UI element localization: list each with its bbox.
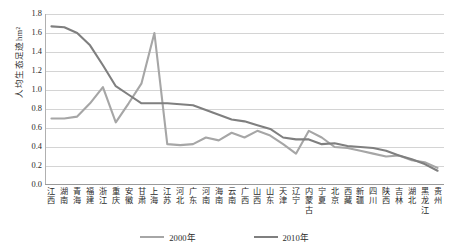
x-tick-label: 四川 (367, 187, 380, 231)
x-tick-label-char: 江 (421, 206, 429, 215)
x-tick-label-char: 青 (73, 187, 81, 196)
x-tick-label: 辽宁 (290, 187, 303, 231)
x-tick-label: 内蒙古 (303, 187, 316, 231)
x-tick-label-char: 建 (86, 196, 94, 205)
x-tick-label: 河南 (200, 187, 213, 231)
x-tick-label-char: 湖 (60, 187, 68, 196)
x-tick-label: 山东 (264, 187, 277, 231)
y-tick-label: 0.0 (18, 181, 42, 189)
x-tick-label: 湖南 (58, 187, 71, 231)
x-tick-label-char: 云 (228, 187, 236, 196)
x-tick-label-char: 湖 (408, 187, 416, 196)
x-tick-label-char: 山 (253, 187, 261, 196)
x-tick-label-char: 西 (382, 196, 390, 205)
x-tick-label: 贵州 (431, 187, 444, 231)
x-tick-label-char: 河 (202, 187, 210, 196)
x-tick-label-char: 疆 (356, 196, 364, 205)
x-tick-label-char: 新 (356, 187, 364, 196)
x-tick-label: 江苏 (161, 187, 174, 231)
x-tick-label-char: 海 (150, 196, 158, 205)
x-tick-label-char: 京 (331, 196, 339, 205)
y-tick-label: 0.6 (18, 124, 42, 132)
y-tick-label: 1.0 (18, 86, 42, 94)
x-tick-label-char: 东 (266, 196, 274, 205)
x-tick-label: 宁夏 (315, 187, 328, 231)
x-tick-label-char: 林 (395, 196, 403, 205)
x-tick-label-char: 山 (266, 187, 274, 196)
x-tick-label-char: 辽 (292, 187, 300, 196)
legend-item[interactable]: 2010年 (254, 231, 309, 243)
x-tick-label: 江西 (45, 187, 58, 231)
y-tick-label: 1.6 (18, 29, 42, 37)
x-tick-label-char: 南 (60, 196, 68, 205)
x-tick-label-char: 江 (163, 187, 171, 196)
x-tick-label: 北京 (328, 187, 341, 231)
x-tick-label: 河北 (174, 187, 187, 231)
x-tick-label-char: 北 (408, 196, 416, 205)
x-tick-label: 甘肃 (135, 187, 148, 231)
x-tick-label: 安徽 (122, 187, 135, 231)
x-tick-label: 山西 (251, 187, 264, 231)
x-tick-label-char: 江 (47, 187, 55, 196)
x-tick-label: 西藏 (341, 187, 354, 231)
y-tick-label: 1.2 (18, 67, 42, 75)
x-tick-label-char: 东 (189, 196, 197, 205)
x-tick-label: 福建 (84, 187, 97, 231)
x-tick-label-char: 海 (215, 187, 223, 196)
x-tick-label: 上海 (148, 187, 161, 231)
x-tick-label-char: 海 (73, 196, 81, 205)
x-tick-label-char: 浙 (99, 187, 107, 196)
x-tick-label-char: 贵 (434, 187, 442, 196)
x-tick-label: 天津 (277, 187, 290, 231)
x-tick-label: 新疆 (354, 187, 367, 231)
x-tick-label-char: 宁 (318, 187, 326, 196)
x-tick-label-char: 徽 (125, 196, 133, 205)
x-tick-label: 吉林 (393, 187, 406, 231)
legend-label: 2010年 (283, 231, 309, 243)
x-tick-label-char: 江 (99, 196, 107, 205)
x-tick-label-char: 庆 (112, 196, 120, 205)
x-tick-label-char: 夏 (318, 196, 326, 205)
x-axis-tick-labels: 江西湖南青海福建浙江重庆安徽甘肃上海江苏河北广东河南海南云南广西山西山东天津辽宁… (45, 187, 444, 231)
legend-color-swatch (254, 236, 278, 238)
x-tick-label-char: 黑 (421, 187, 429, 196)
x-tick-label-char: 川 (369, 196, 377, 205)
series-line-2010年 (51, 26, 437, 170)
x-tick-label-char: 吉 (395, 187, 403, 196)
x-tick-label-char: 西 (47, 196, 55, 205)
x-tick-label-char: 西 (344, 187, 352, 196)
x-tick-label-char: 广 (189, 187, 197, 196)
x-tick-label-char: 广 (241, 187, 249, 196)
x-tick-label: 海南 (212, 187, 225, 231)
x-tick-label: 广西 (238, 187, 251, 231)
y-tick-label: 1.4 (18, 48, 42, 56)
x-tick-label-char: 古 (305, 206, 313, 215)
x-tick-label-char: 南 (228, 196, 236, 205)
x-tick-label-char: 南 (202, 196, 210, 205)
legend-label: 2000年 (169, 231, 195, 243)
x-tick-label: 青海 (71, 187, 84, 231)
x-tick-label: 浙江 (97, 187, 110, 231)
ecological-footprint-line-chart: 人均生态足迹hm² 1.81.61.41.21.00.80.60.40.20.0… (0, 0, 449, 250)
y-tick-label: 0.8 (18, 105, 42, 113)
x-tick-label-char: 重 (112, 187, 120, 196)
x-tick-label-char: 北 (331, 187, 339, 196)
x-tick-label-char: 藏 (344, 196, 352, 205)
legend-item[interactable]: 2000年 (140, 231, 195, 243)
x-tick-label: 黑龙江 (418, 187, 431, 231)
x-tick-label-char: 四 (369, 187, 377, 196)
x-tick-label-char: 西 (241, 196, 249, 205)
x-tick-label-char: 苏 (163, 196, 171, 205)
x-tick-label-char: 龙 (421, 196, 429, 205)
x-tick-label: 重庆 (109, 187, 122, 231)
x-tick-label-char: 南 (215, 196, 223, 205)
x-tick-label-char: 甘 (138, 187, 146, 196)
plot-svg (45, 14, 444, 185)
x-tick-label-char: 肃 (138, 196, 146, 205)
y-tick-label: 0.4 (18, 143, 42, 151)
x-tick-label: 云南 (225, 187, 238, 231)
x-tick-label-char: 州 (434, 196, 442, 205)
x-tick-label: 陕西 (380, 187, 393, 231)
x-tick-label-char: 内 (305, 187, 313, 196)
x-tick-label-char: 宁 (292, 196, 300, 205)
